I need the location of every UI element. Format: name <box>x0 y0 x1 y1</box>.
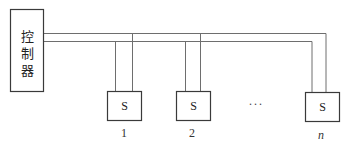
controller-char-1: 控 <box>21 29 34 44</box>
bus-lines <box>43 34 326 93</box>
slave-node-1: S 1 <box>108 92 142 141</box>
slave-index-1: 1 <box>121 126 127 140</box>
controller-char-3: 器 <box>21 63 34 78</box>
slave-box-label-n: S <box>319 100 326 114</box>
slave-box-label-1: S <box>121 99 128 113</box>
ellipsis: ··· <box>249 97 264 111</box>
slave-node-n: S n <box>306 93 340 143</box>
bus-line-inner <box>43 42 312 93</box>
slave-index-n: n <box>318 128 324 142</box>
slave-index-2: 2 <box>189 126 195 140</box>
controller-char-2: 制 <box>21 46 34 61</box>
bus-topology-diagram: 控 制 器 S 1 S 2 ··· S n <box>0 0 347 147</box>
bus-line-outer <box>43 34 326 93</box>
controller-block: 控 制 器 <box>11 10 44 92</box>
slave-box-label-2: S <box>190 99 197 113</box>
slave-node-2: S 2 <box>177 92 211 141</box>
